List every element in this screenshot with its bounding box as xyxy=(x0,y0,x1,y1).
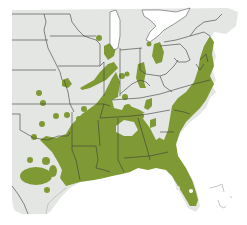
range-patch-arkansas-1 xyxy=(76,116,82,122)
range-patch-missouri-1 xyxy=(81,106,87,112)
range-patch-tennessee-2 xyxy=(138,113,144,119)
range-patch-oklahoma-4 xyxy=(64,112,70,118)
range-patch-texas-3 xyxy=(42,157,50,165)
lake-michigan xyxy=(110,10,120,50)
range-patch-texas-5 xyxy=(44,187,50,193)
lake-okeechobee xyxy=(189,189,193,193)
range-patch-wisconsin xyxy=(96,35,102,41)
range-map xyxy=(0,0,247,225)
range-patch-indiana-2 xyxy=(125,72,130,77)
bahamas-islands xyxy=(210,184,232,208)
florida-gap xyxy=(176,186,180,190)
range-patch-texas-4 xyxy=(27,157,33,163)
range-patch-oklahoma-3 xyxy=(53,113,59,119)
range-patch-kansas-2 xyxy=(40,100,46,106)
range-patch-oklahoma-2 xyxy=(39,121,45,127)
range-patch-kansas-1 xyxy=(36,90,42,96)
range-patch-texas-2 xyxy=(49,165,57,177)
map-canvas xyxy=(0,0,247,225)
range-patch-kentucky-2 xyxy=(125,104,131,110)
range-patch-michigan xyxy=(147,42,152,47)
range-patch-texas-large xyxy=(20,167,52,185)
